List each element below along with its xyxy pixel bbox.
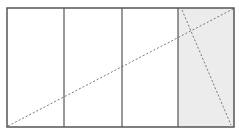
panel-4-shaded	[178, 8, 234, 127]
panel-1	[7, 8, 64, 127]
panel-3	[122, 8, 178, 127]
panel-diagram	[0, 0, 239, 134]
panel-2	[64, 8, 122, 127]
